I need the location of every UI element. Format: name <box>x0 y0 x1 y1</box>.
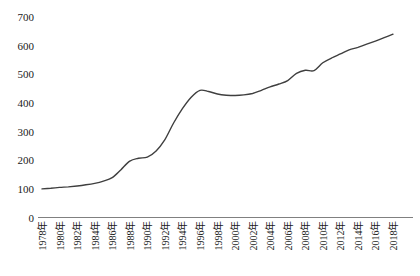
y-axis-tick-label: 400 <box>2 96 34 110</box>
y-axis-tick-label: 500 <box>2 67 34 81</box>
y-axis-tick-label: 100 <box>2 182 34 196</box>
x-axis-tick-label: 1978年 <box>36 221 49 269</box>
y-axis-tick-label: 0 <box>2 211 34 225</box>
x-axis-tick-label: 2012年 <box>334 221 347 269</box>
y-axis-tick-label: 700 <box>2 10 34 24</box>
y-axis-tick-label: 200 <box>2 153 34 167</box>
x-axis-tick-label: 1984年 <box>88 221 101 269</box>
x-axis-tick-label: 1988年 <box>123 221 136 269</box>
x-axis-tick-label: 1990年 <box>141 221 154 269</box>
x-axis-tick-label: 2010年 <box>316 221 329 269</box>
x-axis-tick-label: 1996年 <box>193 221 206 269</box>
x-axis-tick-label: 2008年 <box>299 221 312 269</box>
x-axis-tick-label: 2006年 <box>281 221 294 269</box>
y-axis-tick-label: 600 <box>2 39 34 53</box>
x-axis-tick-label: 2002年 <box>246 221 259 269</box>
x-axis-tick-label: 1992年 <box>158 221 171 269</box>
x-axis-tick-label: 1998年 <box>211 221 224 269</box>
x-axis-tick-label: 1994年 <box>176 221 189 269</box>
y-axis-tick-label: 300 <box>2 125 34 139</box>
x-axis-line <box>38 217 413 218</box>
x-axis-tick-label: 2014年 <box>351 221 364 269</box>
x-axis-tick-label: 1982年 <box>71 221 84 269</box>
data-line <box>42 34 393 189</box>
x-axis-tick-label: 2016年 <box>369 221 382 269</box>
line-chart: 0100200300400500600700 1978年1980年1982年19… <box>0 0 420 276</box>
x-axis-tick-label: 2018年 <box>387 221 400 269</box>
x-axis-tick-label: 2004年 <box>264 221 277 269</box>
x-axis-tick-label: 1986年 <box>106 221 119 269</box>
x-axis-tick-label: 1980年 <box>53 221 66 269</box>
x-axis-tick-label: 2000年 <box>229 221 242 269</box>
